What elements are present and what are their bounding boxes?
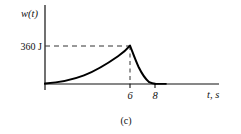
energy-curve	[45, 46, 155, 84]
y-axis-label: w(t)	[21, 8, 38, 20]
energy-plot-svg: w(t) 360 J 6 8 t, s (c)	[0, 0, 241, 134]
y-value-label-360: 360 J	[21, 41, 43, 52]
x-tick-label-6: 6	[127, 90, 133, 101]
x-tick-label-8: 8	[152, 90, 158, 101]
figure-container: w(t) 360 J 6 8 t, s (c)	[0, 0, 241, 134]
x-axis-label: t, s	[207, 89, 219, 100]
figure-caption: (c)	[120, 115, 131, 127]
